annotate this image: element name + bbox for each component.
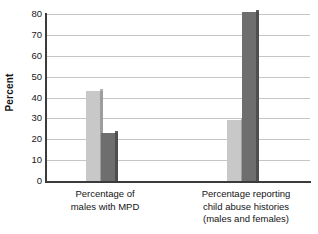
bar-face bbox=[101, 133, 115, 181]
y-tick-label: 40 bbox=[2, 93, 42, 103]
x-axis-category-labels: Percentage of males with MPD Percentage … bbox=[46, 188, 312, 234]
gridline bbox=[46, 14, 310, 15]
y-tick-label: 10 bbox=[2, 155, 42, 165]
category-label-line: (males and females) bbox=[176, 213, 316, 226]
bar-face bbox=[227, 120, 241, 181]
bar-side-shade bbox=[256, 12, 259, 181]
category-label-2: Percentage reporting child abuse histori… bbox=[176, 188, 316, 226]
bar-side-shade bbox=[115, 133, 118, 181]
bar-face bbox=[86, 91, 100, 181]
gridline bbox=[46, 77, 310, 78]
category-label-line: Percentage of bbox=[40, 188, 170, 201]
bar-top-shade bbox=[100, 89, 103, 91]
bar-group1-dark bbox=[101, 133, 115, 181]
y-tick-label: 30 bbox=[2, 114, 42, 124]
category-label-line: Percentage reporting bbox=[176, 188, 316, 201]
category-label-1: Percentage of males with MPD bbox=[40, 188, 170, 213]
y-axis-tick-labels: 80 70 60 50 40 30 20 10 0 bbox=[0, 14, 42, 181]
bar-group2-light bbox=[227, 120, 241, 181]
y-tick-label: 60 bbox=[2, 51, 42, 61]
bar-top-shade bbox=[256, 10, 259, 12]
bar-face bbox=[242, 12, 256, 181]
bar-top-shade bbox=[115, 131, 118, 133]
gridline bbox=[46, 56, 310, 57]
category-label-line: males with MPD bbox=[40, 201, 170, 214]
category-label-line: child abuse histories bbox=[176, 201, 316, 214]
x-axis-line bbox=[45, 181, 311, 183]
gridline bbox=[46, 35, 310, 36]
bar-group2-dark bbox=[242, 12, 256, 181]
bar-chart: Percent 80 70 60 50 40 30 20 10 0 bbox=[0, 0, 318, 234]
plot-area bbox=[46, 14, 310, 181]
y-tick-label: 20 bbox=[2, 135, 42, 145]
y-tick-label: 80 bbox=[2, 9, 42, 19]
y-tick-label: 70 bbox=[2, 30, 42, 40]
y-axis-line bbox=[45, 13, 47, 182]
y-tick-label: 50 bbox=[2, 72, 42, 82]
y-tick-label: 0 bbox=[2, 176, 42, 186]
bar-group1-light bbox=[86, 91, 100, 181]
